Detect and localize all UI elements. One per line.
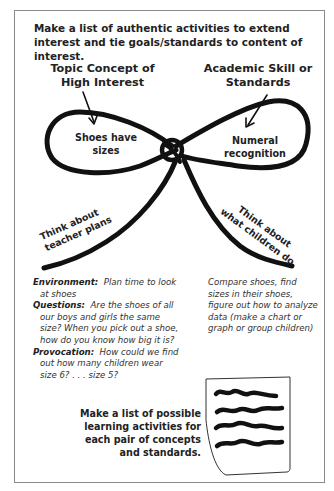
- bottom-instruction: Make a list of possible learning activit…: [78, 407, 201, 459]
- bow-left-tail: [44, 160, 176, 268]
- note-questions: Questions: Are the shoes of all our boys…: [33, 300, 181, 346]
- note-environment: Environment: Plan time to look at shoes: [33, 277, 181, 300]
- teacher-plans-notes: Environment: Plan time to look at shoes …: [33, 277, 181, 381]
- left-loop-text: Shoes have sizes: [66, 131, 146, 157]
- note-provocation: Provocation: How could we find out how m…: [33, 347, 181, 382]
- arrow-icon-right: [248, 95, 267, 125]
- children-do-notes: Compare shoes, find sizes in their shoes…: [208, 277, 320, 335]
- right-loop-text: Numeral recognition: [210, 134, 300, 160]
- list-paper-icon: [206, 377, 290, 475]
